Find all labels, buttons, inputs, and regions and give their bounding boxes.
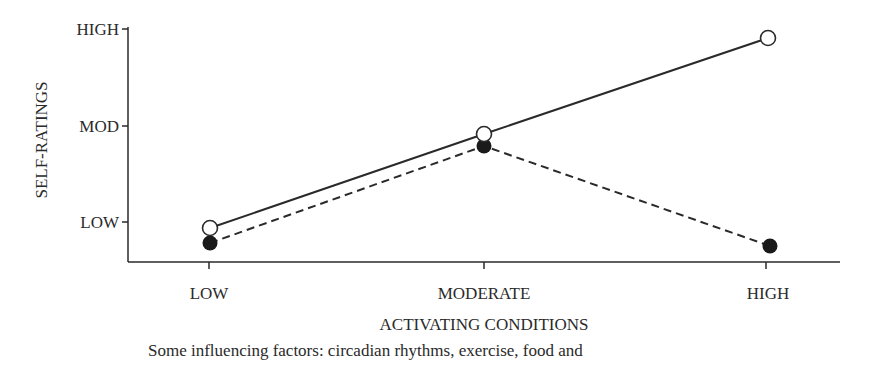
x-tick-label-moderate: MODERATE (438, 284, 531, 303)
x-tick-label-low: LOW (190, 284, 230, 303)
marker-open-moderate (477, 127, 492, 142)
marker-filled-high (763, 239, 778, 254)
y-tick-label-mod: MOD (79, 117, 119, 136)
x-axis-label: ACTIVATING CONDITIONS (380, 315, 589, 334)
marker-open-high (761, 31, 776, 46)
marker-filled-low (203, 236, 218, 251)
y-axis-label: SELF-RATINGS (32, 81, 51, 198)
caption-text: Some influencing factors: circadian rhyt… (148, 341, 583, 361)
series-dashed-line (210, 146, 770, 246)
x-tick-label-high: HIGH (747, 284, 790, 303)
line-chart: HIGH MOD LOW SELF-RATINGS LOW MODERATE H… (0, 0, 873, 371)
marker-open-low (203, 221, 218, 236)
y-tick-label-high: HIGH (77, 20, 120, 39)
y-tick-label-low: LOW (80, 213, 120, 232)
